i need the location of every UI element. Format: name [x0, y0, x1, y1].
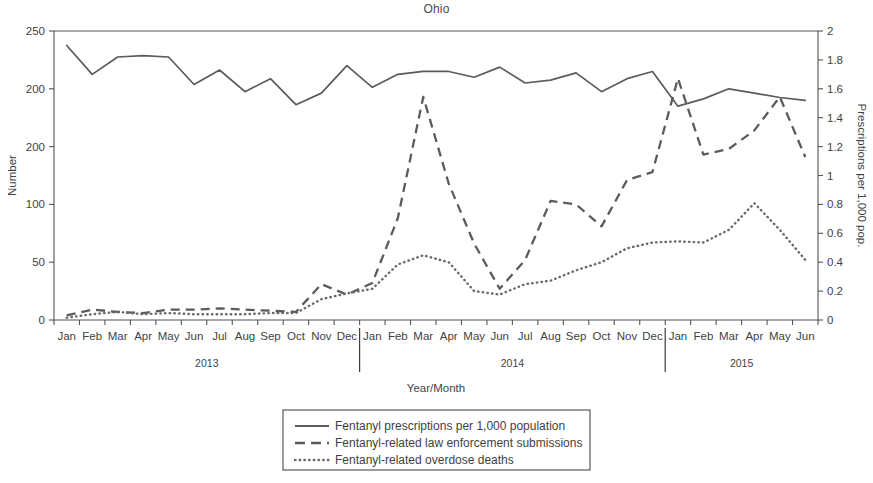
- x-month-label: Aug: [235, 330, 255, 342]
- x-axis-title: Year/Month: [407, 382, 465, 394]
- y2-tick-label: 0.4: [827, 256, 844, 268]
- x-year-label: 2013: [195, 357, 219, 369]
- y2-tick-label: 2: [827, 25, 833, 37]
- series-line-solid: [67, 45, 806, 106]
- x-month-label: Aug: [540, 330, 560, 342]
- y-axis-ticks-right: 00.20.40.60.811.21.41.61.82: [818, 25, 844, 326]
- x-axis-ticks: JanFebMarAprMayJunJulAugSepOctNovDecJanF…: [54, 320, 818, 342]
- y-tick-label: 250: [26, 25, 45, 37]
- x-month-label: Mar: [719, 330, 739, 342]
- y2-tick-label: 0.2: [827, 285, 843, 297]
- x-month-label: Feb: [82, 330, 102, 342]
- y2-tick-label: 0.6: [827, 227, 843, 239]
- x-month-label: May: [158, 330, 180, 342]
- y2-tick-label: 1.4: [827, 112, 844, 124]
- y2-axis-title: Prescriptions per 1,000 pop.: [856, 104, 868, 248]
- x-month-label: Apr: [134, 330, 152, 342]
- x-month-label: Jun: [490, 330, 509, 342]
- x-month-label: Apr: [745, 330, 763, 342]
- y-tick-label: 200: [26, 141, 45, 153]
- x-month-label: Jun: [796, 330, 815, 342]
- x-month-label: Dec: [337, 330, 358, 342]
- x-month-label: Mar: [413, 330, 433, 342]
- x-month-label: Oct: [287, 330, 306, 342]
- x-month-label: Apr: [440, 330, 458, 342]
- chart-legend: Fentanyl prescriptions per 1,000 populat…: [283, 410, 590, 470]
- chart-plot-area: 050100200200250 00.20.40.60.811.21.41.61…: [0, 0, 873, 483]
- y-tick-label: 200: [26, 83, 45, 95]
- axis-frame: [54, 31, 818, 320]
- chart-axes: [54, 31, 818, 320]
- legend-label: Fentanyl prescriptions per 1,000 populat…: [335, 419, 565, 433]
- y2-tick-label: 1.6: [827, 83, 843, 95]
- x-month-label: Nov: [311, 330, 332, 342]
- y2-tick-label: 1: [827, 170, 833, 182]
- chart-axis-titles: NumberPrescriptions per 1,000 pop.Year/M…: [6, 104, 868, 394]
- legend-label: Fentanyl-related overdose deaths: [335, 453, 514, 467]
- series-line-dotted: [67, 203, 806, 317]
- x-month-label: Feb: [693, 330, 713, 342]
- x-month-label: Mar: [108, 330, 128, 342]
- chart-figure: Ohio 050100200200250 00.20.40.60.811.21.…: [0, 0, 873, 483]
- x-month-label: Jan: [57, 330, 76, 342]
- x-month-label: Nov: [617, 330, 638, 342]
- x-month-label: Jun: [185, 330, 204, 342]
- x-month-label: Sep: [566, 330, 586, 342]
- x-month-label: May: [463, 330, 485, 342]
- y2-tick-label: 1.2: [827, 141, 843, 153]
- y2-tick-label: 0: [827, 314, 833, 326]
- y-axis-ticks-left: 050100200200250: [26, 25, 54, 326]
- x-month-label: Oct: [593, 330, 612, 342]
- y2-tick-label: 1.8: [827, 54, 843, 66]
- x-month-label: Jan: [669, 330, 688, 342]
- x-month-label: Jul: [518, 330, 533, 342]
- x-month-label: Feb: [388, 330, 408, 342]
- y2-tick-label: 0.8: [827, 198, 843, 210]
- x-month-label: May: [769, 330, 791, 342]
- x-year-label: 2015: [730, 357, 754, 369]
- legend-label: Fentanyl-related law enforcement submiss…: [335, 436, 582, 450]
- series-line-dashed: [67, 78, 806, 315]
- x-month-label: Jul: [212, 330, 227, 342]
- y-tick-label: 50: [32, 256, 45, 268]
- x-month-label: Sep: [260, 330, 280, 342]
- y-axis-title: Number: [6, 155, 18, 196]
- x-year-label: 2014: [501, 357, 525, 369]
- chart-series-group: [67, 45, 806, 317]
- y-tick-label: 100: [26, 198, 45, 210]
- x-month-label: Dec: [642, 330, 663, 342]
- x-month-label: Jan: [363, 330, 382, 342]
- y-tick-label: 0: [39, 314, 45, 326]
